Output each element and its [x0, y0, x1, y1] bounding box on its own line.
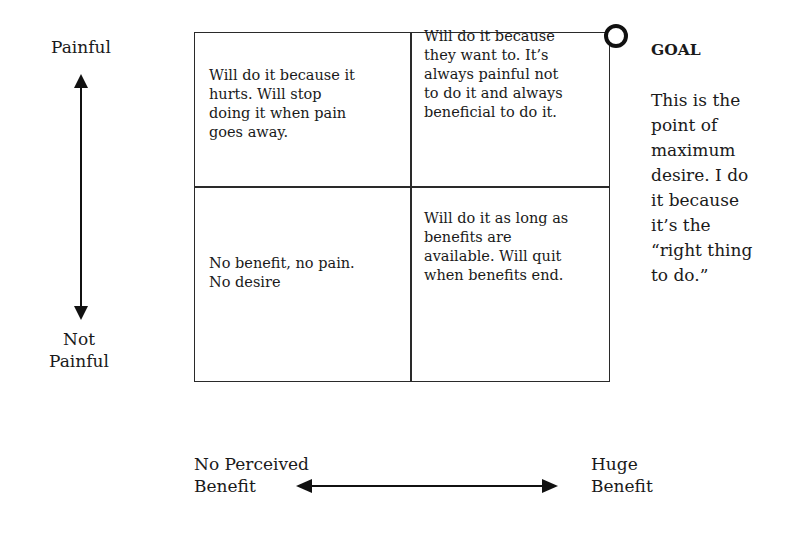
quadrant-bottom-right-text: Will do it as long as benefits are avail… [424, 209, 609, 285]
y-axis-bottom-label-line2: Painful [36, 350, 122, 372]
grid-horizontal-divider [195, 186, 609, 188]
x-axis-left-label-line2: Benefit [194, 475, 309, 497]
quadrant-bottom-left-text: No benefit, no pain. No desire [209, 254, 404, 292]
grid-vertical-divider [410, 33, 412, 381]
horizontal-double-arrow-icon [294, 477, 560, 495]
goal-circle-icon [604, 24, 628, 48]
goal-description: This is the point of maximum desire. I d… [651, 88, 752, 288]
y-axis-bottom-label: Not Painful [36, 328, 122, 372]
goal-title: GOAL [651, 40, 701, 59]
y-axis-bottom-label-line1: Not [36, 328, 122, 350]
x-axis-right-label-line1: Huge [591, 453, 653, 475]
x-axis-left-label-line1: No Perceived [194, 453, 309, 475]
y-axis-top-label: Painful [46, 36, 116, 58]
x-axis-right-label-line2: Benefit [591, 475, 653, 497]
quadrant-top-right-text: Will do it because they want to. It’s al… [424, 27, 609, 122]
quadrant-grid: Will do it because it hurts. Will stop d… [194, 32, 610, 382]
x-axis-right-label: Huge Benefit [591, 453, 653, 497]
vertical-double-arrow-icon [71, 72, 91, 322]
quadrant-top-left-text: Will do it because it hurts. Will stop d… [209, 66, 404, 142]
x-axis-left-label: No Perceived Benefit [194, 453, 309, 497]
